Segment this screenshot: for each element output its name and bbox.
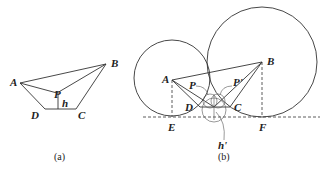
label-h-prime: h' — [218, 139, 227, 151]
geometry-figure: A B P h D C (a) A B P P' — [0, 0, 330, 179]
label-p: P — [54, 88, 61, 100]
label-h: h — [62, 97, 68, 109]
leader-p-prime — [220, 86, 232, 95]
label-b: B — [266, 55, 274, 67]
label-b: B — [110, 57, 118, 69]
label-a: A — [161, 73, 169, 85]
panel-b: A B P P' D C E F h' (b) — [134, 7, 320, 163]
label-f: F — [258, 121, 267, 133]
caption-a: (a) — [54, 151, 65, 163]
label-e: E — [167, 121, 175, 133]
segment-ap — [20, 83, 57, 93]
circle-a — [134, 40, 210, 116]
label-p-prime: P' — [233, 76, 243, 88]
label-c: C — [234, 101, 242, 113]
label-d: D — [30, 109, 39, 121]
label-c: C — [78, 109, 86, 121]
label-a: A — [9, 76, 17, 88]
segment-cb — [76, 64, 106, 109]
segment-ad — [20, 83, 45, 109]
label-d: D — [184, 101, 193, 113]
label-p: P — [189, 79, 196, 91]
segment-ab — [20, 64, 106, 83]
segment-ab — [172, 62, 262, 80]
panel-a: A B P h D C (a) — [9, 57, 118, 163]
caption-b: (b) — [218, 151, 230, 163]
segment-pb — [57, 64, 106, 93]
leader-h-prime — [216, 112, 224, 140]
